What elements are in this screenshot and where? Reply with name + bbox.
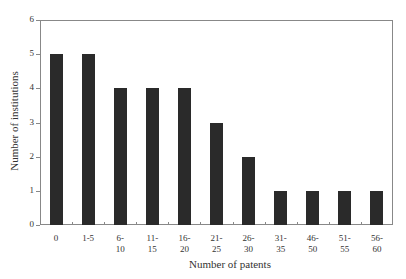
y-tick xyxy=(36,20,40,21)
y-tick-label: 5 xyxy=(20,48,34,58)
x-tick xyxy=(233,222,234,225)
x-tick xyxy=(104,222,105,225)
y-tick xyxy=(36,157,40,158)
x-tick xyxy=(265,222,266,225)
bar xyxy=(114,88,127,225)
bar xyxy=(50,54,63,225)
y-tick xyxy=(36,191,40,192)
bar xyxy=(210,123,223,226)
x-tick xyxy=(329,222,330,225)
bar-chart: 0123456 01-56- 1011- 1516- 2021- 2526- 3… xyxy=(0,0,406,279)
bar xyxy=(82,54,95,225)
x-tick-label: 46- 50 xyxy=(300,233,326,255)
x-tick-label: 26- 30 xyxy=(236,233,262,255)
y-tick xyxy=(36,123,40,124)
x-tick-label: 0 xyxy=(43,233,69,244)
x-tick xyxy=(297,222,298,225)
x-tick-label: 51- 55 xyxy=(332,233,358,255)
bar xyxy=(306,191,319,225)
x-tick xyxy=(72,222,73,225)
y-tick-label: 6 xyxy=(20,14,34,24)
x-tick xyxy=(168,222,169,225)
bar xyxy=(242,157,255,225)
y-tick-label: 3 xyxy=(20,117,34,127)
y-axis-title: Number of institutions xyxy=(8,61,20,181)
x-tick-label: 11- 15 xyxy=(139,233,165,255)
x-tick-label: 31- 35 xyxy=(268,233,294,255)
y-tick-label: 0 xyxy=(20,219,34,229)
y-tick xyxy=(36,88,40,89)
bar xyxy=(338,191,351,225)
x-tick-label: 56- 60 xyxy=(364,233,390,255)
y-tick xyxy=(36,225,40,226)
bar xyxy=(146,88,159,225)
x-tick-label: 16- 20 xyxy=(171,233,197,255)
x-tick-label: 21- 25 xyxy=(204,233,230,255)
y-tick-label: 1 xyxy=(20,185,34,195)
y-tick-label: 4 xyxy=(20,82,34,92)
x-tick xyxy=(361,222,362,225)
x-tick xyxy=(136,222,137,225)
x-tick xyxy=(200,222,201,225)
y-tick-label: 2 xyxy=(20,151,34,161)
bar xyxy=(274,191,287,225)
x-axis-title: Number of patents xyxy=(170,258,290,270)
y-tick xyxy=(36,54,40,55)
x-tick-label: 6- 10 xyxy=(107,233,133,255)
bar xyxy=(178,88,191,225)
bar xyxy=(370,191,383,225)
x-tick-label: 1-5 xyxy=(75,233,101,244)
